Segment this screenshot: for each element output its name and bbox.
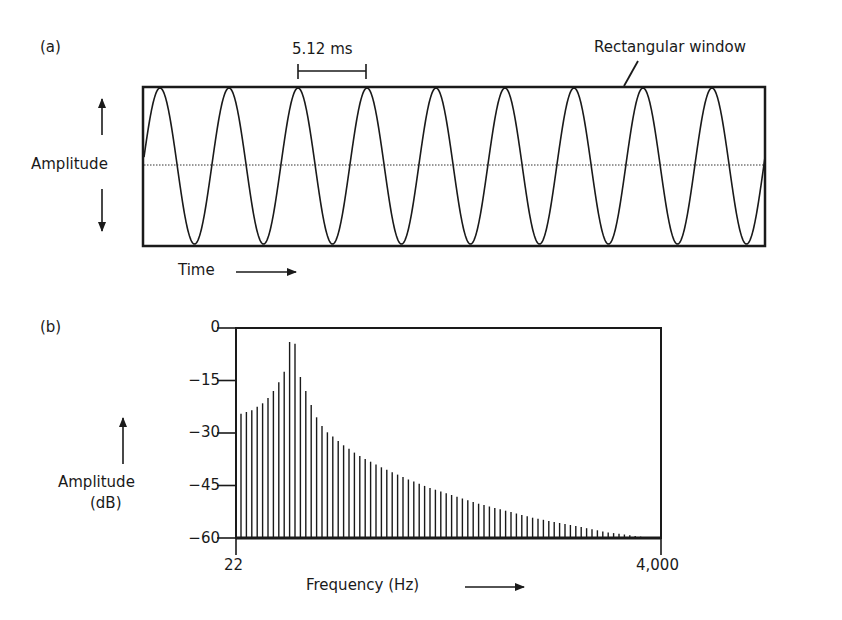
- figure-graphics: [0, 0, 842, 620]
- period-bracket: [298, 64, 366, 79]
- time-plot: [143, 87, 765, 246]
- sine-wave: [144, 88, 765, 244]
- y-ticks: [217, 328, 236, 538]
- window-leader-line: [624, 61, 638, 86]
- spectral-lines: [241, 342, 641, 538]
- spectrum-plot: [217, 328, 661, 555]
